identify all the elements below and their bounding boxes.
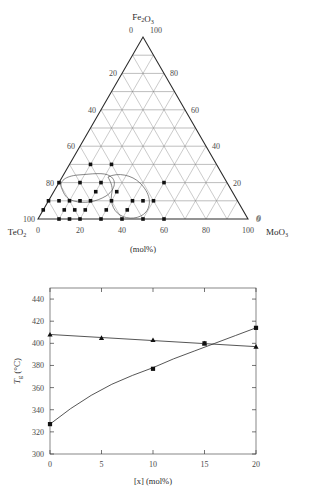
series-curve-rising xyxy=(50,328,256,424)
y-tick-label: 400 xyxy=(32,339,44,348)
ternary-units-caption: (mol%) xyxy=(130,244,156,254)
ternary-diagram-panel: Fe2O30100TeO2MoO302040608010080604020002… xyxy=(0,0,310,262)
ternary-point xyxy=(125,208,129,212)
y-tick-label: 380 xyxy=(32,361,44,370)
ternary-point xyxy=(68,217,72,221)
ternary-point xyxy=(41,208,45,212)
ternary-point xyxy=(120,217,124,221)
ternary-point xyxy=(99,217,103,221)
bottom-axis-tick: 20 xyxy=(76,226,84,235)
right-axis-tick: 0 xyxy=(256,215,260,224)
ternary-point xyxy=(73,208,77,212)
ternary-svg: Fe2O30100TeO2MoO302040608010080604020002… xyxy=(0,0,310,262)
vertex-label-moo3: MoO3 xyxy=(266,227,288,238)
right-axis-tick: 20 xyxy=(233,179,241,188)
figure-root: Fe2O30100TeO2MoO302040608010080604020002… xyxy=(0,0,310,497)
y-tick-label: 320 xyxy=(32,428,44,437)
x-tick-label: 0 xyxy=(48,460,52,469)
tg-line-svg: 30032034036038040042044005101520[x] (mol… xyxy=(0,262,310,497)
ternary-point xyxy=(162,181,166,185)
data-marker-flat xyxy=(150,337,155,342)
x-tick-label: 15 xyxy=(201,460,209,469)
gridline-mo xyxy=(143,128,196,219)
ternary-point xyxy=(78,199,82,203)
region-lobe-left xyxy=(61,174,114,203)
bottom-axis-tick: 40 xyxy=(118,226,126,235)
x-axis-title: [x] (mol%) xyxy=(134,476,172,486)
y-tick-label: 360 xyxy=(32,384,44,393)
left-axis-tick: 80 xyxy=(46,179,54,188)
x-tick-label: 20 xyxy=(252,460,260,469)
ternary-point xyxy=(78,181,82,185)
ternary-point xyxy=(110,163,114,167)
y-tick-label: 440 xyxy=(32,295,44,304)
ternary-point xyxy=(115,190,119,194)
ternary-point xyxy=(83,208,87,212)
bottom-axis-tick: 100 xyxy=(242,226,254,235)
gridline-te xyxy=(133,55,228,219)
left-axis-tick: 40 xyxy=(88,106,96,115)
data-marker-rising xyxy=(48,422,52,426)
bottom-axis-tick: 80 xyxy=(202,226,210,235)
right-axis-tick: 40 xyxy=(212,142,220,151)
ternary-point xyxy=(89,163,93,167)
vertex-label-teo2: TeO2 xyxy=(8,227,26,238)
ternary-point xyxy=(141,199,145,203)
x-tick-label: 5 xyxy=(100,460,104,469)
right-axis-tick: 60 xyxy=(191,106,199,115)
y-axis-title: Tg (°C) xyxy=(12,358,23,384)
y-tick-label: 340 xyxy=(32,406,44,415)
vertex-label-fe2o3: Fe2O3 xyxy=(132,12,154,25)
ternary-point xyxy=(141,217,145,221)
ternary-gridlines xyxy=(49,55,238,219)
gridline-te xyxy=(49,201,60,219)
plot-ticks xyxy=(50,288,256,454)
ternary-point xyxy=(62,208,66,212)
ternary-point xyxy=(57,181,61,185)
ternary-point xyxy=(110,199,114,203)
apex-tick-0: 0 xyxy=(129,26,133,35)
plot-box xyxy=(50,288,256,454)
data-marker-rising xyxy=(151,367,155,371)
ternary-point xyxy=(68,199,72,203)
y-tick-label: 420 xyxy=(32,317,44,326)
ternary-point xyxy=(162,217,166,221)
y-tick-label: 300 xyxy=(32,450,44,459)
ternary-point xyxy=(47,199,51,203)
ternary-point xyxy=(131,199,135,203)
ternary-axis-labels: Fe2O30100TeO2MoO302040608010080604020002… xyxy=(8,12,288,254)
plot-series xyxy=(47,326,258,426)
right-axis-tick: 80 xyxy=(170,69,178,78)
ternary-point xyxy=(152,199,156,203)
apex-tick-100: 100 xyxy=(150,26,162,35)
data-marker-rising xyxy=(254,326,258,330)
ternary-point xyxy=(57,217,61,221)
gridline-mo xyxy=(185,164,217,219)
gridline-mo xyxy=(227,201,238,219)
bottom-axis-tick: 0 xyxy=(36,226,40,235)
tg-line-chart-panel: 30032034036038040042044005101520[x] (mol… xyxy=(0,262,310,497)
left-axis-tick: 100 xyxy=(23,215,35,224)
x-tick-label: 10 xyxy=(149,460,157,469)
gridline-te xyxy=(112,92,186,219)
bottom-axis-tick: 60 xyxy=(160,226,168,235)
left-axis-tick: 20 xyxy=(109,69,117,78)
ternary-point xyxy=(99,181,103,185)
ternary-point xyxy=(78,217,82,221)
gridline-mo xyxy=(59,55,154,219)
ternary-point xyxy=(94,190,98,194)
plot-axis-labels: 30032034036038040042044005101520[x] (mol… xyxy=(12,295,260,486)
plot-frame xyxy=(50,288,256,454)
ternary-point xyxy=(104,208,108,212)
ternary-point xyxy=(57,199,61,203)
left-axis-tick: 60 xyxy=(67,142,75,151)
ternary-point xyxy=(89,199,93,203)
svg-text:Tg (°C): Tg (°C) xyxy=(12,358,23,384)
